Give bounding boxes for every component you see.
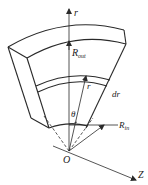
dr-band-inner-arc — [38, 82, 107, 92]
origin-label: O — [63, 154, 70, 165]
r-axis-label: r — [74, 7, 78, 18]
z-axis-label: Z — [138, 169, 144, 180]
r-out-label: Rout — [71, 47, 86, 59]
right-end-edge — [124, 30, 126, 44]
annular-sector-diagram: r Rout dr r θ Rin O Z — [0, 0, 148, 185]
outer-top-arc — [8, 25, 124, 47]
theta-label: θ — [71, 109, 76, 119]
dashed-radial-left — [44, 116, 69, 151]
dr-band-outer-arc — [36, 76, 110, 86]
inner-bottom-arc — [49, 124, 88, 128]
dr-label: dr — [112, 89, 121, 99]
r-in-label: Rin — [118, 120, 129, 131]
r-vector-label: r — [87, 81, 91, 91]
